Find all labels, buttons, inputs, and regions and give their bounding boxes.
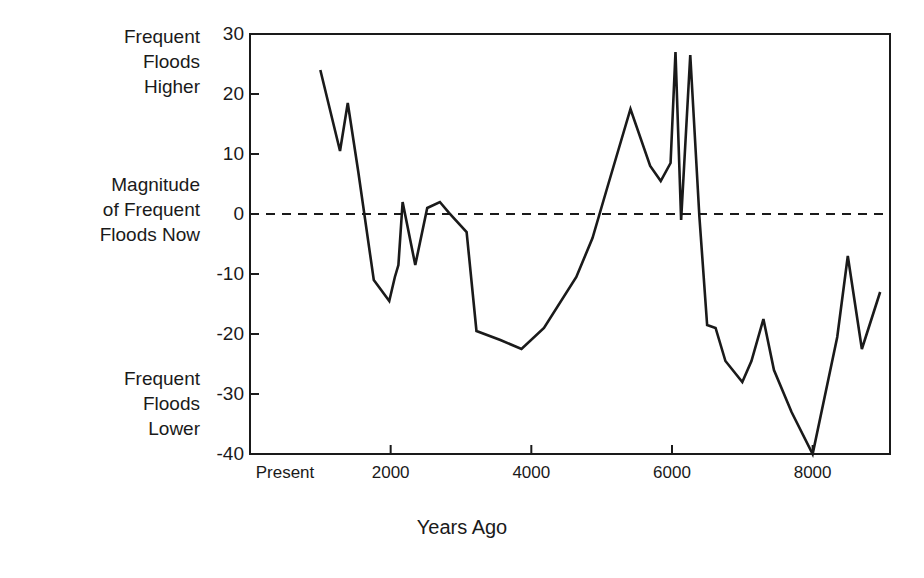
- plot-frame: [250, 34, 890, 454]
- x-axis-title: Years Ago: [0, 516, 924, 539]
- flood-magnitude-chart: Frequent Floods Higher Magnitude of Freq…: [0, 0, 924, 578]
- data-series-line: [320, 52, 880, 454]
- axis-ticks: [250, 94, 813, 454]
- plot-canvas: [0, 0, 924, 578]
